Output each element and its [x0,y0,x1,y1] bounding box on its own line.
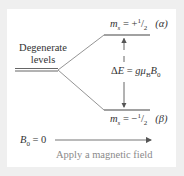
upper-level-label: ms = +1/2 (α) [110,19,168,30]
lower-level-label: ms = −1/2 (β) [110,114,167,125]
degenerate-level-line [15,69,58,72]
split-line-down [58,70,104,110]
energy-gap-label: ΔE = gμBB0 [111,66,160,77]
degenerate-label: Degenerate levels [10,42,76,66]
field-caption: Apply a magnetic field [56,150,153,161]
field-zero-label: B0 = 0 [20,135,46,146]
